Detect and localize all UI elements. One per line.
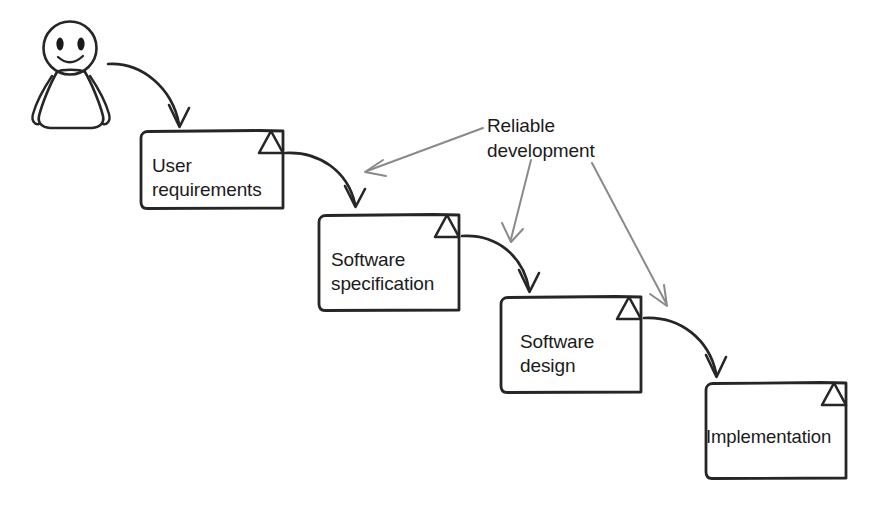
person-left-eye-icon [56, 38, 63, 51]
leader-line [592, 163, 666, 303]
stick-figure-person [32, 22, 109, 129]
node-implementation[interactable] [706, 383, 846, 479]
folded-corner-icon [822, 383, 846, 405]
leader-to-software-design-edge [592, 163, 667, 306]
folded-corner-icon [617, 297, 641, 319]
node-software-design[interactable] [501, 297, 641, 393]
diagram-canvas: User requirements Software specification… [0, 0, 881, 510]
folded-corner-icon [435, 215, 459, 237]
arrow-head-icon [169, 105, 189, 127]
edge-line [108, 64, 179, 124]
node-software-specification[interactable] [319, 215, 459, 311]
edge-software-design-to-implementation [644, 318, 726, 377]
document-outline [141, 131, 283, 209]
leader-to-user-requirements-edge [365, 128, 483, 176]
person-left-arm-icon [32, 76, 52, 124]
diagram-scene [0, 0, 881, 510]
edge-software-specification-to-software-design [462, 236, 539, 292]
folded-corner-icon [259, 131, 283, 153]
person-right-arm-icon [90, 76, 110, 124]
edge-user-requirements-to-software-specification [285, 153, 365, 207]
arrow-head-icon [706, 355, 726, 377]
edge-person-to-user-requirements [108, 64, 189, 127]
node-user-requirements[interactable] [141, 131, 283, 209]
leader-line [511, 160, 531, 239]
person-right-eye-icon [77, 38, 84, 51]
leader-to-software-specification-edge [502, 160, 531, 242]
arrow-head-icon [519, 270, 539, 292]
person-head-icon [44, 22, 97, 75]
leader-line [367, 128, 483, 171]
arrow-head-icon [345, 186, 365, 207]
edge-line [285, 153, 355, 204]
edge-line [644, 318, 716, 373]
person-smile-icon [58, 56, 83, 62]
edge-line [462, 236, 529, 289]
person-neck-icon [57, 70, 85, 72]
